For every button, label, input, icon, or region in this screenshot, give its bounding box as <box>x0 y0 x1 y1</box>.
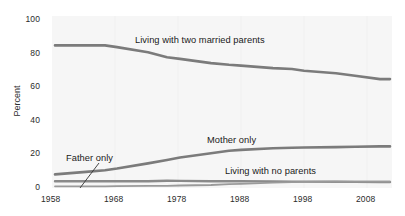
x-tick-label-1988: 1988 <box>230 194 249 204</box>
x-tick-label-1968: 1968 <box>104 194 123 204</box>
y-tick-label-20: 20 <box>14 148 40 158</box>
x-tick-label-1978: 1978 <box>167 194 186 204</box>
x-tick-label-1998: 1998 <box>293 194 312 204</box>
y-tick-label-80: 80 <box>14 48 40 58</box>
line-chart: Percent 100 80 60 40 20 0 1958 1968 1978… <box>0 0 405 216</box>
y-tick-label-0: 0 <box>14 182 40 192</box>
series-label-father-only: Father only <box>66 153 113 163</box>
series-label-living-with-two-married-parents: Living with two married parents <box>135 35 265 45</box>
y-tick-label-100: 100 <box>14 14 40 24</box>
y-tick-label-40: 40 <box>14 115 40 125</box>
x-tick-label-2008: 2008 <box>356 194 375 204</box>
series-label-mother-only: Mother only <box>207 135 256 145</box>
x-tick-label-1958: 1958 <box>41 194 60 204</box>
y-tick-label-60: 60 <box>14 81 40 91</box>
series-label-living-with-no-parents: Living with no parents <box>225 166 316 176</box>
plot-canvas <box>0 0 405 216</box>
